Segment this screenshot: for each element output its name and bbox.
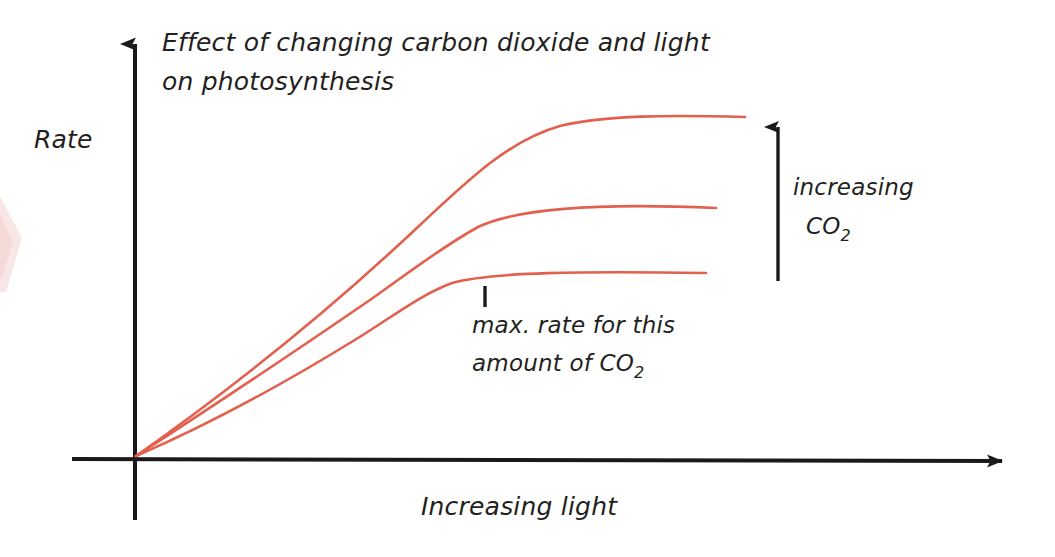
- chart-curves: [136, 116, 745, 456]
- x-axis-line: [72, 459, 1002, 461]
- increasing-co2-label-subscript: 2: [841, 226, 851, 245]
- max-rate-annotation: max. rate for this amount of CO2: [472, 286, 675, 382]
- scan-edge-artifact: [0, 196, 22, 292]
- chart-title-line-2: on photosynthesis: [162, 67, 394, 96]
- chart-title: Effect of changing carbon dioxide and li…: [162, 28, 711, 96]
- max-rate-annotation-line-2-main: amount of CO: [472, 350, 634, 376]
- max-rate-annotation-subscript: 2: [634, 363, 644, 382]
- x-axis-label: Increasing light: [421, 492, 618, 521]
- curve-highest-co2: [136, 116, 745, 456]
- max-rate-annotation-line-2: amount of CO2: [472, 350, 645, 382]
- increasing-co2-label-main: CO: [806, 213, 841, 239]
- max-rate-annotation-line-1: max. rate for this: [472, 312, 675, 338]
- photosynthesis-light-response-chart: Effect of changing carbon dioxide and li…: [0, 0, 1055, 557]
- increasing-co2-label-line-1: increasing: [793, 174, 914, 200]
- chart-axes: [72, 44, 1002, 520]
- figure-canvas: Effect of changing carbon dioxide and li…: [0, 0, 1055, 557]
- y-axis-label: Rate: [34, 125, 93, 154]
- increasing-co2-annotation: increasing CO2: [778, 127, 914, 281]
- increasing-co2-label-line-2: CO2: [806, 213, 851, 245]
- chart-title-line-1: Effect of changing carbon dioxide and li…: [162, 28, 711, 57]
